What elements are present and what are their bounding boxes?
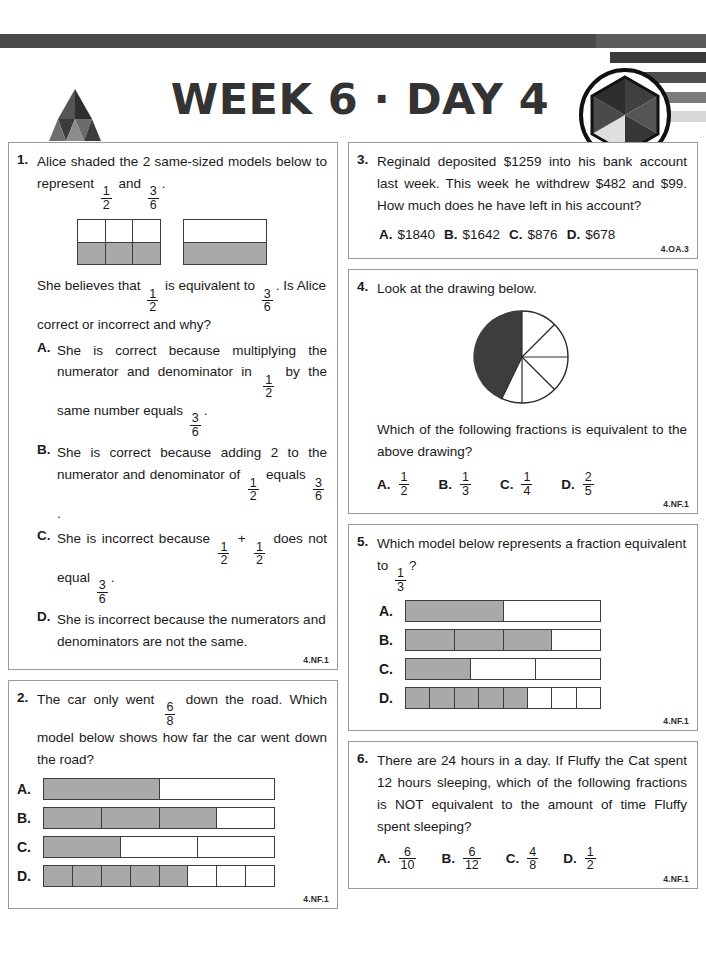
fraction-4d: 25 <box>583 471 594 497</box>
prompt-text-a: Alice shaded the 2 same-sized models bel… <box>37 154 327 191</box>
choice-6c[interactable]: C.48 <box>506 846 541 872</box>
fraction-three-sixths-a: 36 <box>190 412 201 438</box>
choice-6d[interactable]: D.12 <box>563 846 598 872</box>
question-number: 5. <box>357 533 377 549</box>
question-number: 4. <box>357 278 377 294</box>
fraction-one-half-c1: 12 <box>218 541 229 567</box>
question-1-prompt-2: She believes that 12 is equivalent to 36… <box>37 275 327 335</box>
standard-code: 4.OA.3 <box>661 244 689 254</box>
question-number: 2. <box>17 689 37 705</box>
question-4-choices: A.12 B.13 C.14 D.25 <box>357 471 687 497</box>
fraction-6b: 612 <box>463 846 481 872</box>
question-prompt: There are 24 hours in a day. If Fluffy t… <box>377 750 687 837</box>
bar-model-5c[interactable]: C. <box>357 658 687 680</box>
question-prompt: Look at the drawing below. <box>377 278 687 300</box>
bar-model-5d[interactable]: D. <box>357 687 687 709</box>
question-number: 1. <box>17 151 37 167</box>
fraction-three-sixths-2: 36 <box>262 288 273 314</box>
fraction-three-sixths: 36 <box>148 185 159 211</box>
fraction-6d: 12 <box>585 846 596 872</box>
question-3: 3. Reginald deposited $1259 into his ban… <box>348 142 698 259</box>
model-three-column-half-shaded <box>77 219 161 265</box>
fraction-6a: 610 <box>399 846 417 872</box>
question-prompt: Which model below represents a fraction … <box>377 533 687 593</box>
fraction-one-half-2: 12 <box>147 288 158 314</box>
choice-4d[interactable]: D.25 <box>561 471 596 497</box>
bar-model-2c[interactable]: C. <box>17 836 327 858</box>
standard-code: 4.NF.1 <box>663 499 689 509</box>
prompt-text-b: and <box>115 176 145 191</box>
fraction-one-half-b: 12 <box>248 477 259 503</box>
question-2: 2. The car only went 68 down the road. W… <box>8 680 338 909</box>
standard-code: 4.NF.1 <box>303 894 329 904</box>
question-6: 6. There are 24 hours in a day. If Fluff… <box>348 741 698 888</box>
fraction-one-half-a: 12 <box>263 374 274 400</box>
standard-code: 4.NF.1 <box>303 655 329 665</box>
fraction-6c: 48 <box>527 846 538 872</box>
choice-4a[interactable]: A.12 <box>377 471 412 497</box>
bar-model-2a[interactable]: A. <box>17 778 327 800</box>
choice-1c[interactable]: C. She is incorrect because 12 + 12 does… <box>17 528 327 605</box>
fraction-three-sixths-c: 36 <box>97 579 108 605</box>
fraction-4c: 14 <box>521 471 532 497</box>
question-prompt: Alice shaded the 2 same-sized models bel… <box>37 151 327 211</box>
question-5: 5. Which model below represents a fracti… <box>348 524 698 731</box>
standard-code: 4.NF.1 <box>663 874 689 884</box>
question-6-choices: A.610 B.612 C.48 D.12 <box>357 846 687 872</box>
model-one-column-half-shaded <box>183 219 267 265</box>
question-4: 4. Look at the drawing below. Which of t… <box>348 269 698 515</box>
choice-3d[interactable]: D.$678 <box>567 227 616 242</box>
page-title: WEEK 6 · DAY 4 <box>150 74 570 124</box>
choice-4c[interactable]: C.14 <box>500 471 535 497</box>
header-bar-secondary <box>596 34 706 48</box>
choice-4b[interactable]: B.13 <box>438 471 473 497</box>
fraction-one-half: 12 <box>101 185 112 211</box>
choice-1d[interactable]: D. She is incorrect because the numerato… <box>17 609 327 653</box>
choice-6a[interactable]: A.610 <box>377 846 419 872</box>
question-prompt: The car only went 68 down the road. Whic… <box>37 689 327 771</box>
bar-model-5a[interactable]: A. <box>357 600 687 622</box>
choice-3a[interactable]: A.$1840 <box>379 227 435 242</box>
question-3-choices: A.$1840 B.$1642 C.$876 D.$678 <box>357 227 687 242</box>
fraction-six-eighths: 68 <box>165 701 176 727</box>
question-4-prompt-2: Which of the following fractions is equi… <box>377 419 687 463</box>
choice-6b[interactable]: B.612 <box>441 846 483 872</box>
header-bar-primary <box>0 34 600 48</box>
fraction-three-sixths-b: 36 <box>313 477 324 503</box>
standard-code: 4.NF.1 <box>663 716 689 726</box>
bar-model-2b[interactable]: B. <box>17 807 327 829</box>
choice-3b[interactable]: B.$1642 <box>444 227 500 242</box>
question-1: 1. Alice shaded the 2 same-sized models … <box>8 142 338 670</box>
left-column: 1. Alice shaded the 2 same-sized models … <box>8 142 338 919</box>
choice-1b[interactable]: B. She is correct because adding 2 to th… <box>17 442 327 524</box>
page-header: ARGOPREP.COM WEEK 6 · DAY 4 <box>0 30 706 138</box>
pie-chart-eighths <box>357 305 687 409</box>
fraction-4b: 13 <box>460 471 471 497</box>
question-prompt: Reginald deposited $1259 into his bank a… <box>377 151 687 217</box>
prompt-text-c: . <box>162 176 166 191</box>
question-1-models <box>17 219 327 265</box>
question-number: 6. <box>357 750 377 766</box>
bar-model-5b[interactable]: B. <box>357 629 687 651</box>
choice-1a[interactable]: A. She is correct because multiplying th… <box>17 340 327 439</box>
choice-3c[interactable]: C.$876 <box>509 227 558 242</box>
question-number: 3. <box>357 151 377 167</box>
fraction-one-third: 13 <box>395 567 406 593</box>
fraction-4a: 12 <box>399 471 410 497</box>
right-column: 3. Reginald deposited $1259 into his ban… <box>348 142 698 899</box>
bar-model-2d[interactable]: D. <box>17 865 327 887</box>
fraction-one-half-c2: 12 <box>254 541 265 567</box>
